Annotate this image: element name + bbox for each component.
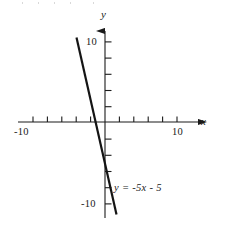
graph-figure: x y -10 10 10 -10 y = -5x - 5 — [0, 0, 227, 227]
scan-artifact — [54, 2, 55, 4]
x-axis — [18, 117, 198, 123]
y-tick-label-positive-ten: 10 — [86, 37, 97, 48]
x-tick-label-positive-ten: 10 — [172, 127, 183, 138]
y-tick-label-negative-ten: -10 — [81, 199, 96, 210]
y-axis-label: y — [101, 9, 106, 20]
x-axis-label: x — [201, 116, 206, 127]
scan-artifact — [22, 2, 23, 4]
equation-annotation: y = -5x - 5 — [114, 183, 162, 194]
scan-artifact — [38, 2, 39, 4]
scan-artifact — [93, 2, 94, 4]
line-plot-y-equals-neg5x-minus5 — [77, 38, 117, 215]
x-tick-label-negative-ten: -10 — [14, 127, 29, 138]
scan-artifact — [70, 2, 71, 4]
